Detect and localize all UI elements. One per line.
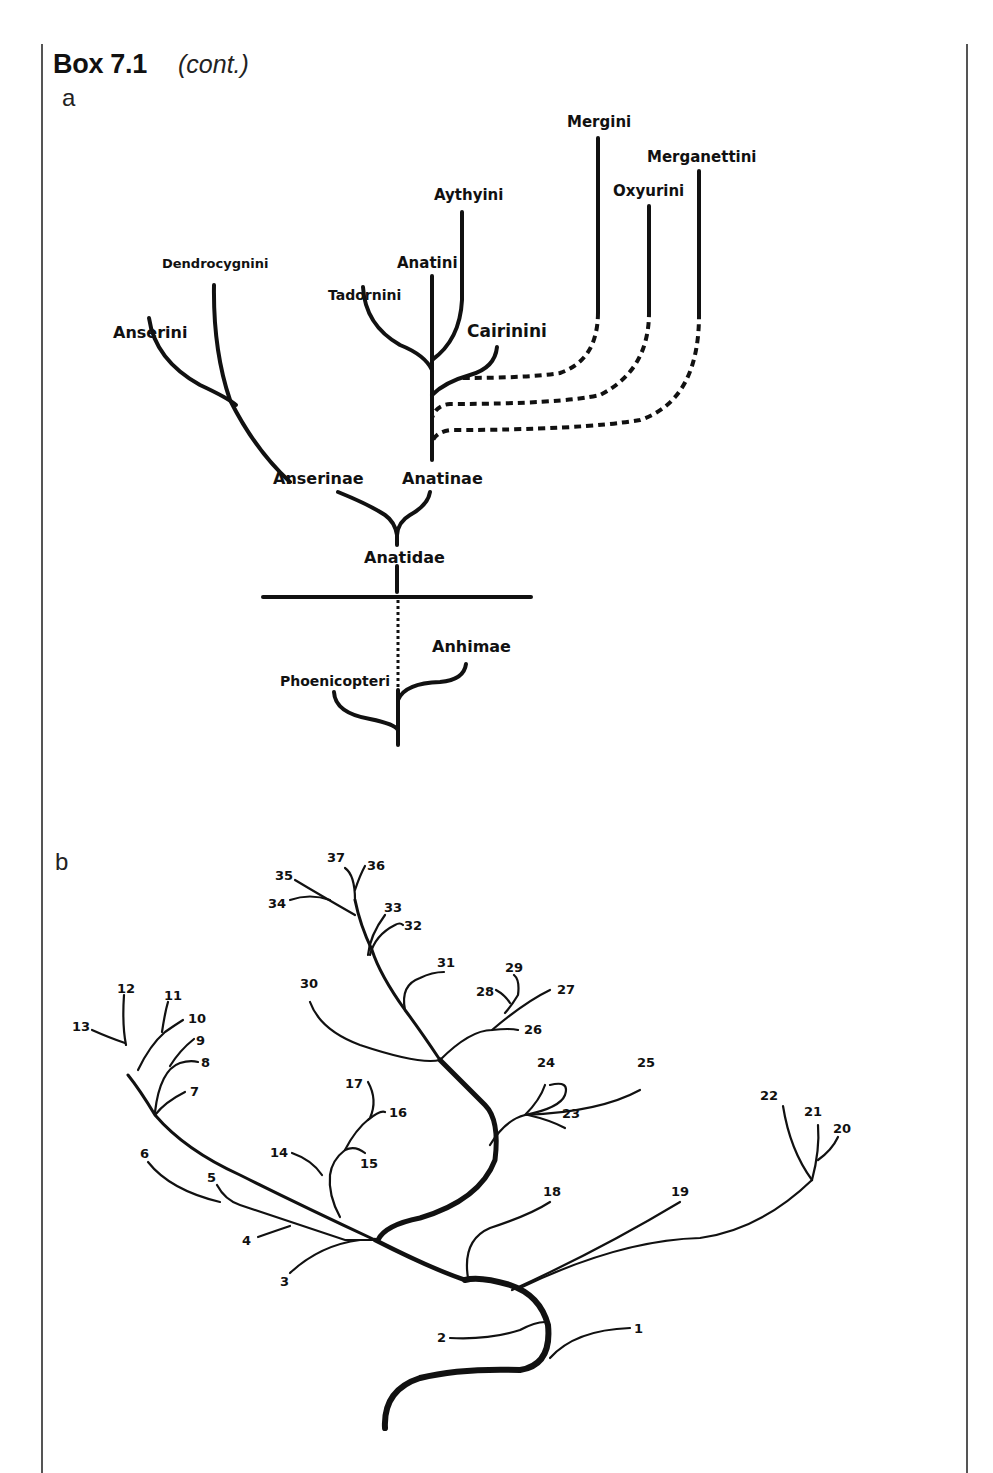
tip-21: 21: [804, 1104, 822, 1119]
tip-11: 11: [164, 988, 182, 1003]
tip-35: 35: [275, 868, 293, 883]
panel-b-tree-diagram: 1 2 3 4 5 6 7 8 9 10 11 12 13 14 15 16 1…: [0, 0, 993, 1473]
tip-32: 32: [404, 918, 422, 933]
tip-18: 18: [543, 1184, 561, 1199]
tip-26: 26: [524, 1022, 542, 1037]
tip-33: 33: [384, 900, 402, 915]
tip-13: 13: [72, 1019, 90, 1034]
tip-23: 23: [562, 1106, 580, 1121]
tip-28: 28: [476, 984, 494, 999]
tip-27: 27: [557, 982, 575, 997]
tip-24: 24: [537, 1055, 555, 1070]
tip-2: 2: [437, 1330, 446, 1345]
tip-8: 8: [201, 1055, 210, 1070]
tip-20: 20: [833, 1121, 851, 1136]
tip-29: 29: [505, 960, 523, 975]
tip-9: 9: [196, 1033, 205, 1048]
tip-12: 12: [117, 981, 135, 996]
tip-3: 3: [280, 1274, 289, 1289]
tip-34: 34: [268, 896, 286, 911]
tip-19: 19: [671, 1184, 689, 1199]
tip-30: 30: [300, 976, 318, 991]
tip-15: 15: [360, 1156, 378, 1171]
tip-10: 10: [188, 1011, 206, 1026]
tip-36: 36: [367, 858, 385, 873]
tip-25: 25: [637, 1055, 655, 1070]
tip-6: 6: [140, 1146, 149, 1161]
tip-7: 7: [190, 1084, 199, 1099]
tip-5: 5: [207, 1170, 216, 1185]
tip-4: 4: [242, 1233, 251, 1248]
tip-37: 37: [327, 850, 345, 865]
tip-1: 1: [634, 1321, 643, 1336]
tip-31: 31: [437, 955, 455, 970]
tip-22: 22: [760, 1088, 778, 1103]
tip-14: 14: [270, 1145, 288, 1160]
tip-17: 17: [345, 1076, 363, 1091]
tip-16: 16: [389, 1105, 407, 1120]
